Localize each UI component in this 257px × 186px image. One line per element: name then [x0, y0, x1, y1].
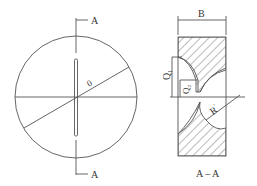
section-label-bottom: A [91, 169, 99, 180]
section-label-top: A [91, 15, 99, 26]
diagonal-line [24, 67, 129, 128]
section-caption: A – A [196, 168, 220, 179]
q2-label: Q2 [181, 85, 192, 95]
front-view [15, 18, 137, 175]
q2-sub: 2 [187, 85, 192, 88]
angle-label: 0 [85, 78, 94, 89]
radius-label: R' [207, 103, 220, 117]
q1-sub: 1 [167, 70, 173, 73]
hatch-upper [178, 37, 226, 92]
q1-label: Q1 [161, 70, 173, 80]
drawing-canvas: A A 0 B Q1 Q2 R' A – A [0, 0, 257, 186]
section-view [170, 16, 245, 156]
width-label: B [198, 8, 205, 19]
